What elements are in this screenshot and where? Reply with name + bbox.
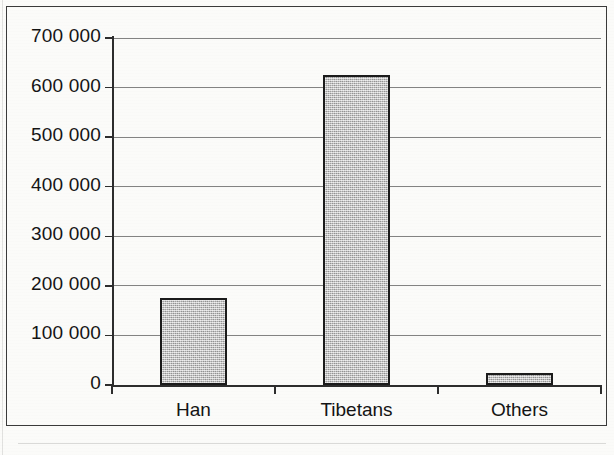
y-axis-labels: 700 000600 000500 000400 000300 000200 0… [2, 0, 101, 455]
y-axis-label-500000: 500 000 [5, 124, 101, 146]
y-axis-label-0: 0 [5, 372, 101, 394]
y-axis-line [112, 36, 114, 387]
x-axis-label-han: Han [112, 399, 275, 421]
x-axis-label-others: Others [438, 399, 601, 421]
x-axis-label-tibetans: Tibetans [275, 399, 438, 421]
y-axis-label-600000: 600 000 [5, 75, 101, 97]
gridline-700000 [112, 38, 601, 39]
x-axis-line [111, 385, 601, 387]
x-tick-0 [111, 385, 112, 394]
x-tick-1 [274, 385, 275, 394]
bar-others [486, 373, 553, 385]
y-axis-label-700000: 700 000 [5, 25, 101, 47]
bar-han [160, 298, 227, 385]
y-axis-label-400000: 400 000 [5, 174, 101, 196]
bar-tibetans [323, 75, 390, 385]
y-axis-label-300000: 300 000 [5, 223, 101, 245]
y-axis-label-100000: 100 000 [5, 322, 101, 344]
x-tick-3 [600, 385, 601, 394]
y-axis-label-200000: 200 000 [5, 273, 101, 295]
x-tick-2 [437, 385, 438, 394]
bar-chart: 700 000600 000500 000400 000300 000200 0… [0, 0, 614, 455]
